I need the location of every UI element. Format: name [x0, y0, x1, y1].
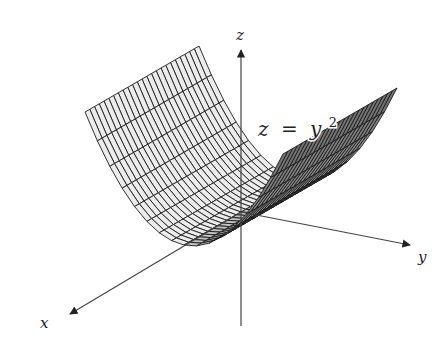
- x-axis-label: x: [40, 314, 49, 332]
- equation-lhs: z: [257, 117, 269, 141]
- equation-exponent: 2: [329, 115, 337, 130]
- equation-label: z = y 2: [257, 115, 337, 141]
- y-axis-label: y: [417, 248, 427, 266]
- z-axis-label: z: [235, 26, 244, 44]
- y-axis: [241, 212, 410, 245]
- equation-equals: =: [281, 117, 298, 141]
- surface-plot: z x y z = y 2: [0, 0, 440, 340]
- equation-base: y: [309, 117, 322, 141]
